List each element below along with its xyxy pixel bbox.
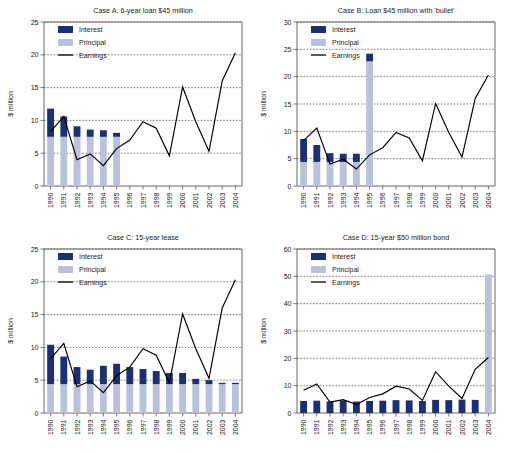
y-tick-label: 0 [35,410,39,417]
legend-swatch-principal [58,266,73,273]
bar-group [340,154,347,186]
y-tick-label: 10 [284,128,292,135]
bar-interest [206,380,213,384]
y-axis-label: $ million [7,318,14,344]
x-tick-label: 1993 [340,192,347,208]
legend-label-interest: Interest [332,26,355,33]
bar-group [300,139,307,186]
bar-group [393,400,400,413]
bar-principal [87,384,94,413]
bar-interest [445,400,452,413]
x-tick-label: 1998 [406,419,413,435]
bar-group [87,370,94,413]
bar-interest [353,154,360,162]
legend-swatch-interest [58,26,73,33]
x-tick-label: 2003 [219,192,226,208]
bar-group [232,383,239,413]
bar-principal [113,384,120,413]
x-tick-label: 1997 [393,419,400,435]
bar-principal [327,162,334,186]
chart-figure-grid: Case A: 6-year loan $45 million051015202… [0,0,506,453]
x-tick-label: 1999 [166,419,173,435]
chart-legend: InterestPrincipalEarnings [58,253,107,287]
x-tick-label: 1994 [353,419,360,435]
panel-case-a: Case A: 6-year loan $45 million051015202… [0,0,253,226]
panel-case-c: Case C: 15-year lease0510152025$ million… [0,227,253,453]
y-tick-label: 10 [284,382,292,389]
bar-interest [179,373,186,384]
legend-swatch-interest [311,253,326,260]
x-tick-label: 2003 [472,419,479,435]
y-tick-label: 15 [31,311,39,318]
y-tick-label: 5 [35,150,39,157]
bar-group [126,367,133,413]
x-tick-label: 1998 [153,192,160,208]
panel-title: Case D: 15-year $50 million bond [343,233,450,242]
bar-group [60,357,67,413]
bar-principal [192,384,199,413]
bar-interest [340,400,347,413]
x-tick-label: 1990 [47,419,54,435]
x-tick-label: 2000 [179,419,186,435]
bar-group [74,367,81,413]
x-tick-label: 1991 [313,419,320,435]
bar-interest [300,401,307,413]
bar-group [300,401,307,413]
x-tick-label: 1997 [393,192,400,208]
chart-case-b: Case B: Loan $45 million with 'bullet'05… [253,0,506,226]
x-tick-label: 1996 [126,192,133,208]
bar-interest [327,402,334,413]
x-tick-label: 1995 [113,419,120,435]
bar-group [60,116,67,186]
bar-group [47,109,54,186]
y-tick-label: 20 [284,355,292,362]
y-tick-label: 5 [288,155,292,162]
bar-group [419,401,426,413]
x-tick-label: 2000 [179,192,186,208]
bar-principal [340,162,347,186]
bar-principal [140,384,147,413]
bar-interest [300,139,307,162]
bar-group [379,401,386,413]
bar-group [140,369,147,413]
legend-label-principal: Principal [332,266,359,274]
legend-label-interest: Interest [332,253,355,260]
legend-label-principal: Principal [79,266,106,274]
bar-group [366,401,373,413]
panel-case-b: Case B: Loan $45 million with 'bullet'05… [253,0,506,226]
legend-label-principal: Principal [79,39,106,47]
bar-principal [60,137,67,186]
bar-interest [192,379,199,384]
bar-interest [100,130,107,137]
legend-label-principal: Principal [332,39,359,47]
bar-principal [47,384,54,413]
bar-principal [100,384,107,413]
bar-group [485,274,492,413]
bar-interest [313,145,320,162]
y-tick-label: 20 [284,73,292,80]
x-tick-label: 1991 [313,192,320,208]
bar-group [179,373,186,413]
x-tick-label: 1999 [419,419,426,435]
bar-interest [366,401,373,413]
bar-principal [100,137,107,186]
y-tick-label: 0 [288,183,292,190]
bar-principal [113,137,120,186]
x-tick-label: 1991 [60,192,67,208]
bar-principal [300,162,307,186]
bar-interest [459,400,466,413]
bar-interest [126,367,133,384]
legend-swatch-principal [311,39,326,46]
bar-interest [313,401,320,413]
bar-principal [232,384,239,413]
bar-principal [219,384,226,413]
x-tick-label: 1992 [327,419,334,435]
x-tick-label: 2002 [459,192,466,208]
x-tick-label: 2000 [432,192,439,208]
panel-title: Case A: 6-year loan $45 million [93,6,192,15]
y-tick-label: 50 [284,273,292,280]
legend-label-earnings: Earnings [79,52,107,60]
x-tick-label: 2001 [445,192,452,208]
x-tick-label: 2004 [232,419,239,435]
legend-swatch-principal [311,266,326,273]
